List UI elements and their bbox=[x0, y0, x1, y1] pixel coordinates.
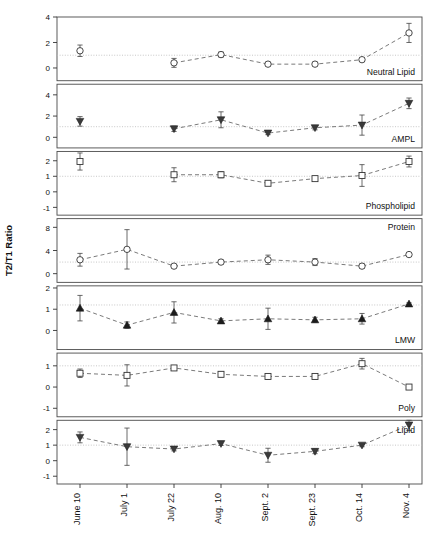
panel-label: Protein bbox=[388, 222, 415, 232]
marker-filled-down-triangle bbox=[76, 118, 84, 125]
marker-open-square bbox=[218, 172, 224, 178]
panel-label: Lipid bbox=[397, 425, 415, 435]
panel-lmw: 012LMW bbox=[46, 284, 422, 349]
data-point bbox=[218, 172, 224, 178]
marker-filled-down-triangle bbox=[264, 130, 272, 137]
series-line bbox=[174, 162, 409, 184]
y-tick-label: 2 bbox=[46, 39, 51, 48]
marker-open-circle bbox=[77, 48, 83, 54]
marker-open-circle bbox=[171, 60, 177, 66]
y-tick-label: 0 bbox=[46, 457, 51, 466]
data-point bbox=[359, 165, 365, 187]
marker-filled-up-triangle bbox=[405, 300, 413, 307]
panel-poly: -101Poly bbox=[43, 353, 422, 417]
data-point bbox=[312, 259, 318, 266]
data-point bbox=[405, 98, 413, 109]
marker-open-square bbox=[359, 173, 365, 179]
data-point bbox=[406, 251, 412, 257]
marker-open-square bbox=[265, 373, 271, 379]
marker-open-circle bbox=[406, 251, 412, 257]
x-tick-label: Sept. 23 bbox=[307, 493, 317, 527]
x-tick-label: Aug. 10 bbox=[213, 493, 223, 524]
data-point bbox=[359, 358, 365, 369]
data-point bbox=[311, 316, 319, 323]
panel-label: Phospholipid bbox=[366, 201, 415, 211]
marker-open-circle bbox=[406, 30, 412, 36]
y-tick-label: -1 bbox=[43, 472, 51, 481]
marker-open-circle bbox=[359, 56, 365, 62]
y-tick-label: 1 bbox=[46, 362, 51, 371]
data-point bbox=[265, 373, 271, 379]
data-point bbox=[124, 230, 130, 269]
marker-open-square bbox=[406, 159, 412, 165]
chart-svg: T2/T1 Ratio024Neutral Lipid024AMPL-1012P… bbox=[0, 0, 431, 545]
data-point bbox=[358, 115, 366, 135]
y-tick-label: 2 bbox=[46, 426, 51, 435]
data-point bbox=[77, 153, 83, 170]
marker-open-square bbox=[171, 172, 177, 178]
marker-open-circle bbox=[218, 259, 224, 265]
marker-open-square bbox=[359, 361, 365, 367]
y-tick-label: 2 bbox=[46, 284, 51, 293]
marker-filled-up-triangle bbox=[76, 304, 84, 311]
y-tick-label: 2 bbox=[46, 112, 51, 121]
data-point bbox=[218, 371, 224, 377]
data-point bbox=[218, 259, 224, 265]
marker-open-circle bbox=[124, 246, 130, 252]
data-point bbox=[264, 130, 272, 137]
data-point bbox=[171, 58, 177, 67]
y-tick-label: -1 bbox=[43, 404, 51, 413]
panel-label: Neutral Lipid bbox=[367, 67, 415, 77]
marker-open-square bbox=[406, 384, 412, 390]
data-point bbox=[265, 61, 271, 67]
data-point bbox=[264, 448, 272, 462]
y-axis-title: T2/T1 Ratio bbox=[3, 225, 14, 276]
marker-filled-down-triangle bbox=[217, 441, 225, 448]
marker-filled-down-triangle bbox=[358, 122, 366, 129]
data-point bbox=[170, 446, 178, 453]
panel-frame bbox=[57, 420, 422, 484]
data-point bbox=[124, 365, 130, 386]
data-point bbox=[406, 23, 412, 42]
y-tick-label: 4 bbox=[46, 91, 51, 100]
panel-ampl: 024AMPL bbox=[46, 84, 422, 148]
data-point bbox=[217, 441, 225, 448]
marker-open-circle bbox=[359, 263, 365, 269]
x-tick-label: Oct. 14 bbox=[354, 493, 364, 522]
data-point bbox=[312, 176, 318, 182]
data-point bbox=[77, 369, 83, 377]
marker-open-square bbox=[124, 372, 130, 378]
data-point bbox=[218, 51, 224, 57]
marker-open-circle bbox=[312, 259, 318, 265]
data-point bbox=[358, 313, 366, 324]
data-point bbox=[76, 117, 84, 127]
marker-filled-up-triangle bbox=[264, 315, 272, 322]
y-tick-label: 0 bbox=[46, 188, 51, 197]
y-tick-label: 0 bbox=[46, 383, 51, 392]
marker-filled-down-triangle bbox=[264, 452, 272, 459]
marker-filled-down-triangle bbox=[405, 100, 413, 107]
data-point bbox=[217, 112, 225, 128]
panel-label: LMW bbox=[395, 335, 416, 345]
marker-open-square bbox=[77, 159, 83, 165]
series-line bbox=[174, 103, 409, 133]
x-tick-label: Sept. 2 bbox=[260, 493, 270, 522]
data-point bbox=[265, 180, 271, 186]
marker-filled-down-triangle bbox=[170, 446, 178, 453]
marker-open-square bbox=[265, 180, 271, 186]
marker-open-circle bbox=[265, 61, 271, 67]
panel-neutral-lipid: 024Neutral Lipid bbox=[46, 13, 422, 81]
marker-filled-up-triangle bbox=[170, 309, 178, 316]
marker-filled-up-triangle bbox=[311, 316, 319, 323]
marker-filled-down-triangle bbox=[311, 448, 319, 455]
panel-frame bbox=[57, 286, 422, 350]
y-tick-label: 1 bbox=[46, 172, 51, 181]
marker-open-square bbox=[218, 371, 224, 377]
x-tick-label: June 10 bbox=[72, 493, 82, 525]
series-line bbox=[80, 425, 409, 455]
marker-open-circle bbox=[265, 257, 271, 263]
data-point bbox=[406, 384, 412, 390]
data-point bbox=[77, 45, 83, 56]
y-tick-label: 0 bbox=[46, 134, 51, 143]
series-line bbox=[174, 33, 409, 64]
